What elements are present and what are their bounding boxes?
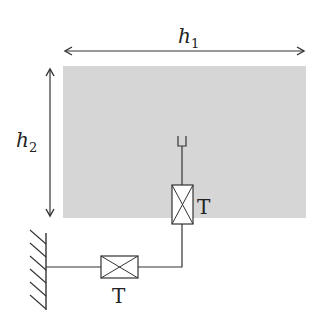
thruster-vertical [172,185,193,224]
height-label: h2 [16,128,37,155]
thruster-vertical-label: T [197,195,211,219]
fixed-wall [30,230,46,310]
width-label: h1 [178,24,199,51]
thruster-horizontal-label: T [112,284,126,308]
diagram-canvas: h1 h2 T T [0,0,327,328]
thruster-horizontal [101,256,138,278]
arm-link-middle [138,224,182,267]
